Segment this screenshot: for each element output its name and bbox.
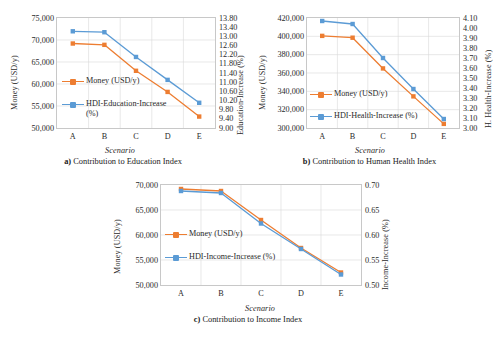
chart-c-legend-label-hdi: HDI-Income-Increase (%) [187,252,275,262]
tick-label: 3.20 [463,104,477,113]
chart-b-x-axis-title: Scenario [355,146,385,155]
tick-label: 0.55 [365,256,379,265]
tick-label: 3.80 [463,44,477,53]
tick-label: 50,000 [108,281,158,290]
chart-a-legend-label-money: Money (USD/y) [84,76,139,86]
tick-label: 3.90 [463,34,477,43]
tick-label: 9.40 [219,114,233,123]
chart-c-legend-item-money: Money (USD/y) [165,229,275,239]
tick-label: 70,000 [108,181,158,190]
chart-c-legend: Money (USD/y) HDI-Income-Increase (%) [165,229,275,263]
chart-c-x-axis-title: Scenario [245,304,275,313]
tick-label: 10.20 [219,96,237,105]
tick-label: 3.60 [463,64,477,73]
chart-a-caption-prefix: a) [64,157,71,166]
x-category-label: B [94,132,114,141]
tick-label: 50,000 [4,124,54,133]
x-category-label: B [343,132,363,141]
chart-c-caption-prefix: c) [194,315,201,324]
tick-label: 11.40 [219,69,237,78]
tick-label: 420,000 [254,14,304,23]
tick-label: 340,000 [254,87,304,96]
chart-b-legend-item-money: Money (USD/y) [310,89,417,99]
chart-a-x-axis-title: Scenario [105,146,135,155]
tick-label: 400,000 [254,32,304,41]
x-category-label: C [373,132,393,141]
x-category-label: A [312,132,332,141]
tick-label: 320,000 [254,105,304,114]
chart-a-legend: Money (USD/y) HDI-Education-Increase (%) [62,76,170,119]
chart-a-caption: a) Contribution to Education Index [0,157,246,166]
x-category-label: D [403,132,423,141]
tick-label: 65,000 [108,206,158,215]
tick-label: 70,000 [4,36,54,45]
tick-label: 55,000 [4,102,54,111]
chart-a-legend-item-hdi: HDI-Education-Increase (%) [62,99,170,118]
chart-c-y-axis-title: Money (USD/y) [113,219,122,274]
x-category-label: E [189,132,209,141]
chart-c-legend-label-money: Money (USD/y) [187,229,242,239]
chart-c-caption: c) Contribution to Income Index [103,315,393,324]
tick-label: 380,000 [254,50,304,59]
line-marker-icon [62,100,84,109]
x-category-label: C [126,132,146,141]
tick-label: 0.50 [365,281,379,290]
chart-b-legend: Money (USD/y) HDI-Health-Increase (%) [310,89,417,122]
tick-label: 75,000 [4,14,54,23]
chart-b-legend-label-money: Money (USD/y) [332,89,387,99]
chart-b-caption: b) Contribution to Human Health Index [246,157,493,166]
tick-label: 9.80 [219,105,233,114]
chart-b-y-axis-title: Money (USD/y) [258,55,267,110]
tick-label: 65,000 [4,58,54,67]
tick-label: 11.00 [219,78,237,87]
chart-panel-education: Money (USD/y) Education-Increase (%) 50,… [0,0,246,170]
x-category-label: E [434,132,454,141]
tick-label: 11.80 [219,59,237,68]
chart-panel-health: Money (USD/y) H. Health-Increase (%) 300… [246,0,493,170]
x-category-label: D [158,132,178,141]
chart-a-caption-text: Contribution to Education Index [73,157,182,166]
tick-label: 0.60 [365,231,379,240]
chart-b-caption-prefix: b) [303,157,310,166]
tick-label: 60,000 [4,80,54,89]
line-marker-icon [165,253,187,262]
chart-c-caption-text: Contribution to Income Index [202,315,302,324]
tick-label: 0.65 [365,206,379,215]
tick-label: 3.30 [463,94,477,103]
tick-label: 10.60 [219,87,237,96]
line-marker-icon [62,77,84,86]
tick-label: 60,000 [108,231,158,240]
tick-label: 300,000 [254,124,304,133]
tick-label: 0.70 [365,181,379,190]
tick-label: 3.50 [463,74,477,83]
tick-label: 9.00 [219,124,233,133]
x-category-label: D [291,289,311,298]
tick-label: 3.10 [463,114,477,123]
x-category-label: C [251,289,271,298]
tick-label: 55,000 [108,256,158,265]
x-category-label: A [171,289,191,298]
page-bottom-cutoff-text [100,333,430,338]
x-category-label: A [63,132,83,141]
chart-a-legend-label-hdi: HDI-Education-Increase (%) [84,99,170,118]
tick-label: 3.40 [463,84,477,93]
chart-b-y2-axis-title: H. Health-Increase (%) [484,50,493,128]
tick-label: 4.10 [463,14,477,23]
tick-label: 12.20 [219,50,237,59]
tick-label: 4.00 [463,24,477,33]
line-marker-icon [310,112,332,121]
chart-c-y2-axis-title: Income-Increase (%) [381,219,390,290]
chart-c-legend-item-hdi: HDI-Income-Increase (%) [165,252,275,262]
line-marker-icon [310,90,332,99]
chart-a-legend-item-money: Money (USD/y) [62,76,170,86]
x-category-label: B [211,289,231,298]
tick-label: 13.00 [219,32,237,41]
tick-label: 13.40 [219,23,237,32]
chart-b-legend-label-hdi: HDI-Health-Increase (%) [332,111,417,121]
x-category-label: E [331,289,351,298]
tick-label: 13.80 [219,14,237,23]
tick-label: 3.00 [463,124,477,133]
chart-b-legend-item-hdi: HDI-Health-Increase (%) [310,111,417,121]
line-marker-icon [165,230,187,239]
chart-b-caption-text: Contribution to Human Health Index [312,157,436,166]
